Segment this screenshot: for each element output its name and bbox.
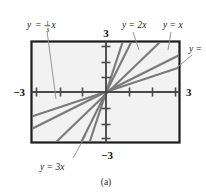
x-axis-left-label: −3	[13, 86, 25, 98]
x-axis-right-label: 3	[186, 86, 192, 98]
label-y-equals-two-x: y = 2x	[121, 20, 147, 30]
label-y-equals-one-third-x: y = 1 3 x	[26, 19, 57, 33]
label-third-lhs: y	[26, 20, 32, 30]
label-y-equals-x: y = x	[162, 20, 183, 30]
label-third-numerator: 1	[46, 19, 49, 26]
svg-text:=: =	[35, 20, 41, 30]
line-family-plot: −3 3 3 −3 y = 1 3 x y = 2x y = x y =	[0, 0, 206, 195]
label-third-variable: x	[51, 20, 57, 30]
y-axis-top-label: 3	[103, 27, 109, 39]
label-third-eq: =	[35, 20, 41, 30]
svg-text:y: y	[26, 20, 32, 30]
label-y-equals-three-x: y = 3x	[39, 162, 65, 172]
label-y-equals-right-cut: y =	[188, 44, 202, 54]
figure-caption: (a)	[101, 177, 112, 188]
label-third-denominator: 3	[46, 26, 49, 33]
figure-container: −3 3 3 −3 y = 1 3 x y = 2x y = x y =	[0, 0, 206, 195]
y-axis-bottom-label: −3	[101, 149, 113, 161]
